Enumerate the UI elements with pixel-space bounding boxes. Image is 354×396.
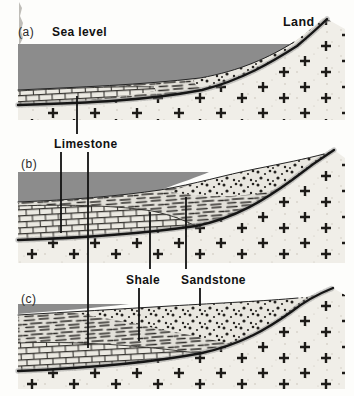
geology-diagram-canvas: (a) Sea level Land Limestone (b) Shale S… (0, 0, 354, 396)
panel-c (18, 288, 345, 389)
panel-a-letter: (a) (18, 25, 34, 39)
sea-level-label: Sea level (52, 25, 107, 39)
geology-transgression-figure: (a) Sea level Land Limestone (b) Shale S… (0, 0, 354, 396)
panel-b (18, 150, 345, 263)
shale-label: Shale (126, 273, 160, 287)
panel-c-letter: (c) (21, 292, 37, 306)
limestone-label: Limestone (54, 137, 118, 151)
panel-b-letter: (b) (21, 157, 37, 171)
land-label: Land (283, 15, 314, 29)
sandstone-label: Sandstone (181, 273, 246, 287)
